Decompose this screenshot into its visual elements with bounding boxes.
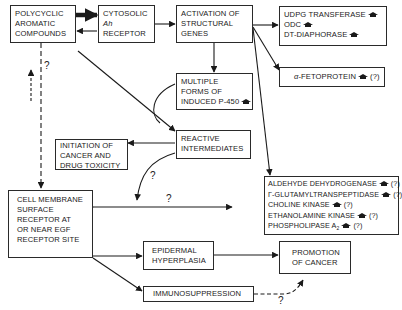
node-text: HYPERPLASIA xyxy=(152,256,205,266)
node-text: SURFACE xyxy=(17,205,84,215)
enzyme-item: ETHANOLAMINE KINASE(?) xyxy=(268,211,395,222)
node-multiple-forms-p450: MULTIPLE FORMS OF INDUCED P-450 xyxy=(176,73,253,110)
question-mark-membrane-enzymes: ? xyxy=(166,193,172,204)
increase-arrow-icon xyxy=(357,213,367,216)
enzyme-label: CHOLINE KINASE xyxy=(268,200,330,209)
increase-arrow-icon xyxy=(379,181,389,184)
increase-arrow-icon xyxy=(358,74,368,77)
uncertain-mark: (?) xyxy=(369,211,378,220)
node-activation-structural-genes: ACTIVATION OF STRUCTURAL GENES xyxy=(176,5,253,43)
uncertain-mark: (?) xyxy=(391,179,400,188)
node-text: RECEPTOR SITE xyxy=(17,235,84,245)
enzyme-item: ODC xyxy=(284,20,382,30)
uncertain-mark: (?) xyxy=(344,200,353,209)
node-text: INDUCED P-450 xyxy=(181,97,239,106)
question-mark-reactive-curve: ? xyxy=(150,170,156,181)
node-cytosolic-ah-receptor: CYTOSOLIC Ah RECEPTOR xyxy=(98,5,155,43)
node-text: FORMS OF xyxy=(181,87,248,97)
increase-arrow-icon xyxy=(381,192,391,195)
node-text: COMPOUNDS xyxy=(15,29,71,39)
enzyme-label: ODC xyxy=(284,20,301,29)
enzyme-label: ETHANOLAMINE KINASE xyxy=(268,211,355,220)
node-text: ACTIVATION OF xyxy=(181,9,248,19)
increase-arrow-icon xyxy=(341,223,351,226)
enzyme-item: DT-DIAPHORASE xyxy=(284,30,382,40)
enzyme-item: CHOLINE KINASE(?) xyxy=(268,200,395,211)
increase-arrow-icon xyxy=(303,22,313,25)
node-text: OF CANCER xyxy=(292,258,338,268)
node-text: CYTOSOLIC xyxy=(103,9,150,19)
node-polycyclic-aromatic-compounds: POLYCYCLIC AROMATIC COMPOUNDS xyxy=(10,5,76,43)
increase-arrow-icon xyxy=(241,99,251,102)
increase-arrow-icon xyxy=(368,12,378,15)
node-induced-enzymes-top: UDPG TRANSFERASE ODC DT-DIAPHORASE xyxy=(279,6,387,46)
node-text: INITIATION OF xyxy=(60,141,123,151)
node-text: CANCER AND xyxy=(60,151,123,161)
node-epidermal-hyperplasia: EPIDERMAL HYPERPLASIA xyxy=(143,241,214,270)
uncertain-mark: (?) xyxy=(370,72,380,81)
enzyme-label: PHOSPHOLIPASE A xyxy=(268,221,336,230)
node-text: MULTIPLE xyxy=(181,77,248,87)
node-cell-membrane-egf-receptor: CELL MEMBRANE SURFACE RECEPTOR AT OR NEA… xyxy=(8,190,93,258)
enzyme-item: UDPG TRANSFERASE xyxy=(284,10,382,20)
node-initiation-cancer-toxicity: INITIATION OF CANCER AND DRUG TOXICITY xyxy=(55,139,128,170)
node-text: DRUG TOXICITY xyxy=(60,161,123,171)
node-text: OR NEAR EGF xyxy=(17,225,84,235)
node-text: PROMOTION xyxy=(292,248,338,258)
node-immunosuppression: IMMUNOSUPPRESSION xyxy=(143,286,254,302)
increase-arrow-icon xyxy=(332,202,342,205)
enzyme-label: γ-GLUTAMYLTRANSPEPTIDASE xyxy=(268,190,379,199)
node-text-p450: INDUCED P-450 xyxy=(181,97,248,107)
node-promotion-of-cancer: PROMOTION OF CANCER xyxy=(279,241,351,274)
node-alpha-fetoprotein: α-FETOPROTEIN(?) xyxy=(279,67,385,87)
node-text: RECEPTOR AT xyxy=(17,215,84,225)
enzyme-item: PHOSPHOLIPASE A2(?) xyxy=(268,221,395,234)
node-text: CELL MEMBRANE xyxy=(17,195,84,205)
enzyme-label: DT-DIAPHORASE xyxy=(284,30,347,39)
node-text: POLYCYCLIC xyxy=(15,9,71,19)
node-text-ah: Ah xyxy=(103,19,150,29)
node-text: STRUCTURAL xyxy=(181,19,248,29)
node-text: IMMUNOSUPPRESSION xyxy=(153,289,244,299)
node-reactive-intermediates: REACTIVE INTERMEDIATES xyxy=(176,130,251,159)
uncertain-mark: (?) xyxy=(393,190,402,199)
enzyme-item: α-FETOPROTEIN(?) xyxy=(294,72,380,82)
node-text: GENES xyxy=(181,29,248,39)
node-induced-enzymes-bottom: ALDEHYDE DEHYDROGENASE(?) γ-GLUTAMYLTRAN… xyxy=(264,176,399,235)
question-mark-pah-membrane: ? xyxy=(44,60,50,71)
enzyme-item: γ-GLUTAMYLTRANSPEPTIDASE(?) xyxy=(268,190,395,201)
node-text: RECEPTOR xyxy=(103,29,150,39)
increase-arrow-icon xyxy=(349,32,359,35)
enzyme-label: ALDEHYDE DEHYDROGENASE xyxy=(268,179,377,188)
enzyme-label: UDPG TRANSFERASE xyxy=(284,10,366,19)
question-mark-immuno-promotion: ? xyxy=(278,295,284,306)
node-text: AROMATIC xyxy=(15,19,71,29)
enzyme-item: ALDEHYDE DEHYDROGENASE(?) xyxy=(268,179,395,190)
enzyme-label: -FETOPROTEIN xyxy=(298,72,356,81)
uncertain-mark: (?) xyxy=(353,221,362,230)
subscript: 2 xyxy=(336,226,339,232)
node-text: EPIDERMAL xyxy=(152,246,205,256)
node-text: INTERMEDIATES xyxy=(181,144,246,154)
node-text: REACTIVE xyxy=(181,134,246,144)
